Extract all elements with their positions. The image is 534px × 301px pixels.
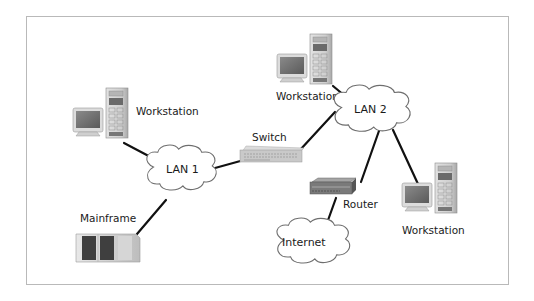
switch-icon <box>240 146 304 162</box>
workstation-icon <box>73 88 128 138</box>
internet-label: Internet <box>282 236 326 249</box>
mainframe-icon <box>76 234 140 262</box>
lan-2-label: LAN 2 <box>354 103 387 116</box>
internet-cloud[interactable]: Internet <box>277 218 350 263</box>
lan-2-cloud[interactable]: LAN 2 <box>334 85 410 131</box>
workstation-2[interactable]: Workstation <box>276 34 339 102</box>
link-lan2-router <box>361 128 380 182</box>
link-switch-lan2 <box>300 112 335 150</box>
switch[interactable]: Switch <box>240 131 304 162</box>
link-mainframe-lan1 <box>137 200 166 234</box>
workstation-3-label: Workstation <box>402 224 465 236</box>
workstation-3[interactable]: Workstation <box>402 163 465 236</box>
router-label: Router <box>343 198 378 210</box>
workstation-icon <box>402 163 457 213</box>
router-icon <box>310 178 356 194</box>
lan-1-label: LAN 1 <box>166 163 199 176</box>
workstation-1[interactable]: Workstation <box>73 88 199 138</box>
workstation-2-label: Workstation <box>276 90 339 102</box>
workstation-1-label: Workstation <box>136 105 199 117</box>
mainframe-label: Mainframe <box>80 212 136 224</box>
network-diagram: Workstation LAN 1 Mainframe Switch <box>0 0 534 301</box>
mainframe[interactable]: Mainframe <box>76 212 140 262</box>
link-lan1-switch <box>215 160 244 168</box>
link-lan2-workstation3 <box>393 130 418 184</box>
lan-1-cloud[interactable]: LAN 1 <box>147 145 216 190</box>
switch-label: Switch <box>252 131 287 143</box>
router[interactable]: Router <box>310 178 378 210</box>
workstation-icon <box>277 34 332 84</box>
